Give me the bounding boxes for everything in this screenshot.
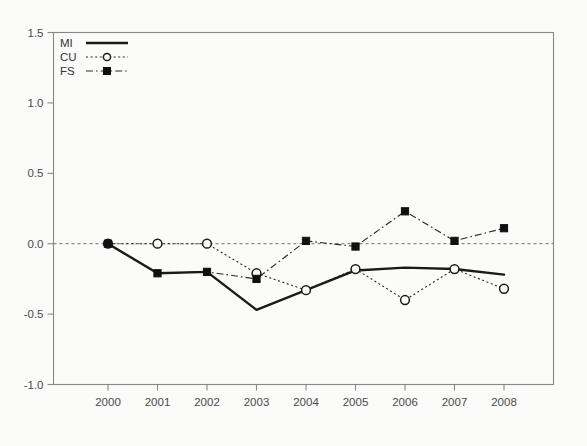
series-line-mi xyxy=(108,244,504,310)
data-point-fs xyxy=(500,225,507,232)
legend-label-cu: CU xyxy=(60,51,77,63)
data-point-fs xyxy=(104,240,111,247)
x-tick-label: 2002 xyxy=(194,396,220,408)
series-markers-cu xyxy=(104,239,509,304)
series-markers-fs xyxy=(104,208,507,283)
legend-marker-fs xyxy=(104,68,111,75)
data-point-cu xyxy=(203,239,212,248)
line-chart: 1.51.00.50.0-0.5-1.0 2000200120022003200… xyxy=(0,0,587,446)
y-tick-label: 1.0 xyxy=(28,97,44,109)
x-tick-label: 2004 xyxy=(293,396,319,408)
x-axis-tick-labels: 200020012002200320042005200620072008 xyxy=(95,396,517,408)
data-point-fs xyxy=(154,270,161,277)
series-group xyxy=(104,208,509,310)
legend-label-mi: MI xyxy=(60,37,73,49)
plot-frame xyxy=(54,33,554,385)
x-tick-label: 2003 xyxy=(244,396,270,408)
x-tick-label: 2008 xyxy=(491,396,517,408)
data-point-fs xyxy=(401,208,408,215)
data-point-fs xyxy=(253,275,260,282)
y-tick-label: 0.5 xyxy=(28,167,44,179)
data-point-cu xyxy=(500,284,509,293)
y-tick-label: 0.0 xyxy=(28,238,44,250)
x-axis-ticks xyxy=(108,385,504,391)
data-point-cu xyxy=(153,239,162,248)
y-tick-label: -1.0 xyxy=(24,379,44,391)
y-tick-label: 1.5 xyxy=(28,27,44,39)
y-tick-label: -0.5 xyxy=(24,308,44,320)
data-point-cu xyxy=(401,296,410,305)
x-tick-label: 2006 xyxy=(392,396,418,408)
data-point-cu xyxy=(351,265,360,274)
data-point-fs xyxy=(302,237,309,244)
data-point-fs xyxy=(203,268,210,275)
data-point-cu xyxy=(450,265,459,274)
chart-legend: MI CU FS xyxy=(60,37,128,77)
legend-label-fs: FS xyxy=(60,65,75,77)
chart-page: 1.51.00.50.0-0.5-1.0 2000200120022003200… xyxy=(0,0,587,446)
x-tick-label: 2000 xyxy=(95,396,121,408)
legend-marker-cu xyxy=(103,53,110,60)
y-axis-tick-labels: 1.51.00.50.0-0.5-1.0 xyxy=(24,27,44,391)
data-point-cu xyxy=(302,286,311,295)
x-tick-label: 2007 xyxy=(442,396,468,408)
x-tick-label: 2005 xyxy=(343,396,369,408)
x-tick-label: 2001 xyxy=(145,396,171,408)
data-point-fs xyxy=(352,243,359,250)
y-axis-ticks xyxy=(48,33,54,385)
data-point-fs xyxy=(451,237,458,244)
